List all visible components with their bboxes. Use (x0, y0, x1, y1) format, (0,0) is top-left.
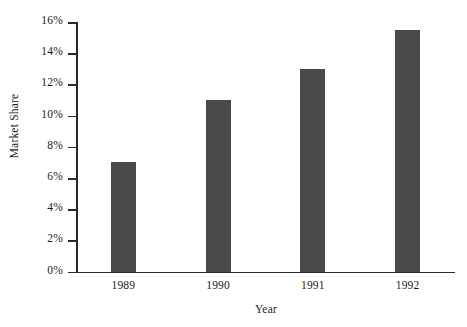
y-tick-label: 6% (3, 170, 63, 182)
bar-chart: Market Share 0% 2% 4% 6% 8% 10% 1 (0, 0, 467, 327)
x-tick-label: 1991 (273, 279, 353, 291)
y-tick-mark (68, 209, 76, 211)
y-tick-mark (68, 22, 76, 24)
bar-1991 (300, 69, 325, 272)
x-tick-label: 1990 (178, 279, 258, 291)
x-tick-label: 1992 (368, 279, 448, 291)
x-axis-line (76, 272, 455, 274)
y-axis-line (76, 22, 78, 273)
y-tick-mark (68, 116, 76, 118)
y-tick-label: 8% (3, 139, 63, 151)
x-axis-title: Year (76, 303, 456, 315)
y-axis-title: Market Share (8, 76, 20, 176)
y-tick-mark (68, 240, 76, 242)
y-tick-mark (68, 84, 76, 86)
y-tick-label: 16% (3, 14, 63, 26)
y-tick-label: 14% (3, 45, 63, 57)
bar-1990 (206, 100, 231, 272)
y-tick-mark (68, 272, 76, 274)
bar-1989 (111, 162, 136, 271)
bar-1992 (395, 30, 420, 272)
y-tick-label: 0% (3, 264, 63, 276)
y-tick-label: 10% (3, 108, 63, 120)
y-tick-label: 12% (3, 76, 63, 88)
y-tick-mark (68, 53, 76, 55)
y-tick-mark (68, 178, 76, 180)
y-tick-label: 4% (3, 201, 63, 213)
y-tick-mark (68, 147, 76, 149)
y-tick-label: 2% (3, 232, 63, 244)
x-tick-label: 1989 (83, 279, 163, 291)
